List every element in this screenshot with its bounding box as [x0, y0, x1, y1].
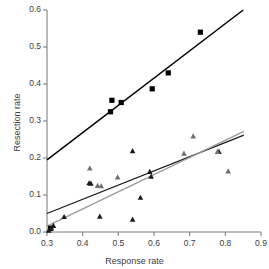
- triangle-marker: [98, 183, 104, 188]
- x-tick-label: 0.3: [33, 239, 61, 248]
- triangle-marker: [97, 214, 103, 219]
- y-tick-label: 0.6: [29, 5, 41, 14]
- y-tick-label: 0.0: [29, 227, 41, 236]
- x-axis-label: Response rate: [0, 257, 269, 266]
- x-tick-label: 0.4: [69, 239, 97, 248]
- square-marker: [198, 30, 203, 35]
- x-tick-label: 0.7: [176, 239, 204, 248]
- fit-lines: [47, 10, 244, 226]
- square-marker: [109, 98, 114, 103]
- x-tick-label: 0.9: [247, 239, 269, 248]
- triangle-marker: [181, 151, 187, 156]
- y-tick-label: 0.4: [29, 79, 41, 88]
- x-tick-label: 0.6: [140, 239, 168, 248]
- square-marker: [166, 70, 171, 75]
- square-marker: [150, 86, 155, 91]
- scatter-chart-figure: 0.00.10.20.30.40.50.60.30.40.50.60.70.80…: [0, 0, 269, 269]
- x-tick-label: 0.5: [104, 239, 132, 248]
- y-tick-label: 0.5: [29, 42, 41, 51]
- y-axis-label: Resection rate: [13, 68, 22, 178]
- triangle-dark-fit: [47, 135, 244, 213]
- triangle-marker: [130, 216, 136, 221]
- triangle-marker: [190, 133, 196, 138]
- square-marker: [119, 100, 124, 105]
- square-fit: [47, 10, 243, 160]
- triangle-marker: [115, 174, 121, 179]
- x-tick-label: 0.8: [211, 239, 239, 248]
- triangle-marker: [225, 168, 231, 173]
- triangle-gray-fit: [47, 131, 244, 226]
- square-marker: [108, 109, 113, 114]
- y-tick-label: 0.1: [29, 190, 41, 199]
- triangle-marker: [130, 148, 136, 153]
- y-tick-label: 0.3: [29, 116, 41, 125]
- triangle-marker: [87, 165, 93, 170]
- triangle-marker: [138, 195, 144, 200]
- y-tick-label: 0.2: [29, 153, 41, 162]
